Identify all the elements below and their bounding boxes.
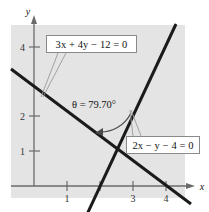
figure-coordinate-plane: 1 2 4 1 3 4 y x θ = 79.70° 3x + (0, 0, 209, 212)
callout-equation-line1: 3x + 4y − 12 = 0 (46, 35, 137, 53)
y-tick-label-2: 2 (20, 111, 25, 122)
angle-annotation-label: θ = 79.70° (72, 99, 116, 110)
y-tick-label-4: 4 (20, 42, 25, 53)
y-tick-label-1: 1 (20, 146, 25, 157)
x-tick-label-4: 4 (164, 193, 169, 204)
x-tick-label-1: 1 (65, 193, 70, 204)
x-axis-label: x (199, 181, 205, 192)
callout-equation-line2: 2x − y − 4 = 0 (126, 136, 200, 154)
x-tick-label-3: 3 (131, 193, 136, 204)
y-axis-label: y (25, 6, 31, 17)
